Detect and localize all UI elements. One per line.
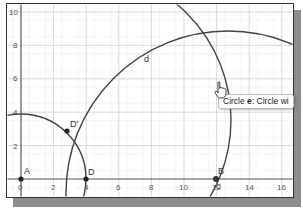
svg-text:C: C <box>216 183 221 190</box>
point-B[interactable]: B <box>213 166 224 182</box>
object-tooltip: Circle e: Circle wi <box>218 94 294 109</box>
tooltip-suffix: : Circle wi <box>252 96 289 106</box>
svg-text:4: 4 <box>84 183 89 192</box>
svg-text:A: A <box>24 166 30 176</box>
svg-text:0: 0 <box>18 183 23 192</box>
svg-text:6: 6 <box>116 183 121 192</box>
svg-text:6: 6 <box>13 74 18 83</box>
svg-text:8: 8 <box>149 183 154 192</box>
svg-text:10: 10 <box>179 183 188 192</box>
svg-text:10: 10 <box>9 8 18 17</box>
point-D-prime[interactable]: D' <box>64 119 78 134</box>
svg-text:2: 2 <box>13 142 18 151</box>
y-tick-labels: 10 8 6 4 2 <box>9 8 18 151</box>
hand-cursor-icon <box>214 81 228 99</box>
svg-text:B: B <box>218 166 224 176</box>
svg-text:D: D <box>88 167 95 177</box>
svg-text:14: 14 <box>245 183 254 192</box>
circle-d-label: d <box>144 54 149 64</box>
svg-text:8: 8 <box>13 41 18 50</box>
svg-text:D': D' <box>70 119 78 129</box>
svg-text:4: 4 <box>13 108 18 117</box>
svg-text:2: 2 <box>51 183 56 192</box>
point-C[interactable]: C <box>216 183 221 190</box>
svg-text:16: 16 <box>277 183 286 192</box>
